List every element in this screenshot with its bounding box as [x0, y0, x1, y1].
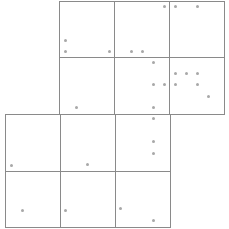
point-dot	[10, 164, 13, 167]
point-dot	[64, 50, 67, 53]
grid-cell	[115, 114, 171, 172]
grid-cell	[5, 114, 61, 172]
point-dot	[119, 207, 122, 210]
grid-cell	[59, 57, 115, 115]
grid-diagram	[0, 0, 229, 229]
point-dot	[152, 140, 155, 143]
point-dot	[152, 152, 155, 155]
grid-cell	[5, 171, 61, 228]
point-dot	[152, 83, 155, 86]
point-dot	[108, 50, 111, 53]
point-dot	[163, 83, 166, 86]
point-dot	[152, 219, 155, 222]
point-dot	[64, 39, 67, 42]
grid-cell	[115, 171, 171, 228]
point-dot	[152, 117, 155, 120]
grid-cell	[169, 57, 225, 115]
point-dot	[196, 83, 199, 86]
point-dot	[196, 72, 199, 75]
grid-cell	[60, 171, 116, 228]
point-dot	[130, 50, 133, 53]
grid-cell	[59, 1, 115, 58]
point-dot	[86, 163, 89, 166]
point-dot	[141, 50, 144, 53]
point-dot	[174, 72, 177, 75]
point-dot	[152, 61, 155, 64]
point-dot	[185, 72, 188, 75]
point-dot	[196, 5, 199, 8]
point-dot	[21, 209, 24, 212]
point-dot	[207, 95, 210, 98]
point-dot	[174, 5, 177, 8]
point-dot	[163, 5, 166, 8]
point-dot	[174, 83, 177, 86]
point-dot	[75, 106, 78, 109]
point-dot	[152, 106, 155, 109]
grid-cell	[114, 57, 170, 115]
grid-cell	[169, 1, 225, 58]
point-dot	[64, 209, 67, 212]
